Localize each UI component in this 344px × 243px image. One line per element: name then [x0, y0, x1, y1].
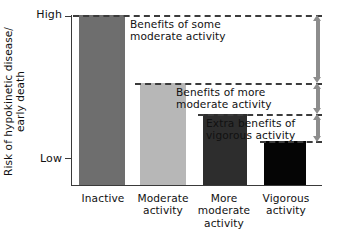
- dash-line-inactive-level: [73, 15, 322, 17]
- arrow-shaft: [316, 119, 320, 137]
- arrow-head-down: [313, 136, 321, 142]
- annotation-benefits-of-some-moderate-activity: Benefits of some moderate activity: [130, 18, 280, 43]
- bar-inactive: [79, 15, 125, 185]
- y-tick-label-high: High: [6, 8, 62, 21]
- y-axis-title: Risk of hypokinetic disease/ early death: [3, 2, 26, 202]
- x-tick-label-vigorous: Vigorous activity: [246, 192, 326, 217]
- range-arrow-some-moderate: [313, 15, 323, 83]
- annotation-benefits-of-more-moderate-activity: Benefits of more moderate activity: [176, 86, 321, 111]
- chart-figure: Risk of hypokinetic disease/ early death…: [0, 0, 344, 243]
- dash-line-more-moderate-level: [198, 114, 322, 116]
- range-arrow-more-moderate: [313, 83, 323, 114]
- arrow-shaft: [316, 20, 320, 78]
- dash-line-moderate-level: [135, 83, 322, 85]
- range-arrow-vigorous: [313, 114, 323, 142]
- bar-vigorous: [264, 141, 306, 185]
- arrow-shaft: [316, 88, 320, 109]
- y-tick-label-low: Low: [6, 152, 62, 165]
